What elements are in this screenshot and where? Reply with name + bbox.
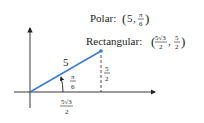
y-leg-den: 2 <box>105 75 109 83</box>
x-leg-num: 5√3 <box>61 98 72 106</box>
radius-label: 5 <box>63 56 69 68</box>
polar-paren-close: ) <box>145 11 149 26</box>
point-marker <box>99 49 103 53</box>
rect-y-num: 5 <box>175 34 179 42</box>
polar-label: Polar: <box>90 12 116 24</box>
angle-den: 6 <box>71 83 75 91</box>
angle-num: π <box>71 73 75 81</box>
polar-diagram: Polar: ( 5 , π 6 ) Rectangular: ( 5√3 2 … <box>0 0 204 123</box>
x-leg-den: 2 <box>65 108 69 116</box>
rect-comma: , <box>168 35 171 47</box>
y-leg-num: 5 <box>105 65 109 73</box>
rect-paren-close: ) <box>181 34 185 49</box>
polar-theta-num: π <box>139 11 143 19</box>
rectangular-label: Rectangular: <box>86 35 142 47</box>
rect-y-den: 2 <box>175 43 179 51</box>
rect-x-den: 2 <box>159 43 163 51</box>
polar-comma: , <box>133 12 136 24</box>
polar-theta-den: 6 <box>139 20 143 28</box>
angle-arc-arrow <box>61 77 63 92</box>
rect-x-num: 5√3 <box>155 34 166 42</box>
polar-paren-open: ( <box>122 11 126 26</box>
